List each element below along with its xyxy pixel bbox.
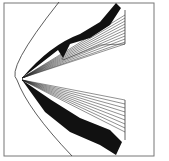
- lower-dense-band: [22, 80, 122, 155]
- upper-dense-band: [22, 3, 121, 78]
- streamline-figure: [0, 0, 169, 161]
- bow-shock-curve: [15, 2, 72, 156]
